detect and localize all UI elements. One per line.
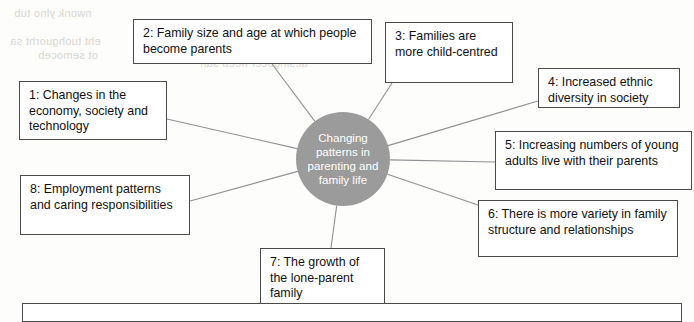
- node-label-7: 7: The growth of the lone-parent family: [270, 255, 359, 300]
- node-label-8: 8: Employment patterns and caring respon…: [30, 182, 173, 212]
- connector-line-6: [388, 174, 479, 205]
- connector-line-8: [190, 171, 298, 201]
- hub-circle[interactable]: Changing patterns in parenting and famil…: [296, 112, 390, 206]
- node-box-8[interactable]: 8: Employment patterns and caring respon…: [20, 175, 190, 235]
- node-box-3[interactable]: 3: Families are more child-centred: [385, 22, 513, 83]
- node-box-1[interactable]: 1: Changes in the economy, society and t…: [19, 81, 167, 140]
- connector-line-2: [272, 64, 315, 121]
- node-label-5: 5: Increasing numbers of young adults li…: [505, 138, 679, 168]
- node-box-4[interactable]: 4: Increased ethnic diversity in society: [538, 68, 680, 108]
- connector-line-1: [167, 119, 297, 149]
- node-label-4: 4: Increased ethnic diversity in society: [548, 75, 653, 105]
- node-box-5[interactable]: 5: Increasing numbers of young adults li…: [495, 131, 692, 190]
- node-box-2[interactable]: 2: Family size and age at which people b…: [133, 19, 372, 64]
- diagram-page: nwonk ylno tubeht tuohguorht saot semoce…: [0, 0, 694, 322]
- node-label-6: 6: There is more variety in family struc…: [488, 207, 667, 237]
- node-label-3: 3: Families are more child-centred: [395, 29, 498, 59]
- hub-label: Changing patterns in parenting and famil…: [296, 131, 390, 188]
- node-box-6[interactable]: 6: There is more variety in family struc…: [478, 200, 678, 257]
- connector-line-3: [369, 83, 393, 120]
- connector-line-5: [390, 160, 495, 162]
- connector-line-7: [331, 206, 337, 248]
- node-box-7[interactable]: 7: The growth of the lone-parent family: [260, 248, 385, 306]
- footer-box: [22, 303, 682, 322]
- node-label-1: 1: Changes in the economy, society and t…: [29, 88, 148, 133]
- node-label-2: 2: Family size and age at which people b…: [143, 26, 357, 56]
